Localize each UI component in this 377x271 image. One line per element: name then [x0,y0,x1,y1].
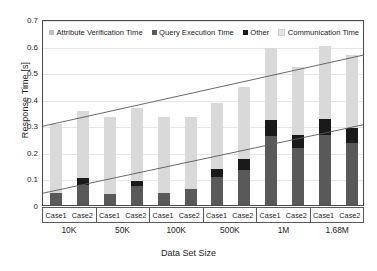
y-tick-label: 0.4 [27,95,38,104]
total-trend [43,55,363,126]
x-case-label: Case1 [150,208,176,222]
x-case-label: Case1 [311,208,337,222]
y-tick-label: 0.6 [27,42,38,51]
trend-lines [43,21,363,205]
y-tick-label: 0.2 [27,148,38,157]
lower-trend [43,125,363,193]
x-group-box: Case1Case2 [97,207,151,223]
x-axis-case-labels: Case1Case2Case1Case2Case1Case2Case1Case2… [42,207,364,223]
x-group-box: Case1Case2 [311,207,365,223]
x-case-label: Case2 [69,208,95,222]
y-axis-tick-labels: 00.10.20.30.40.50.60.7 [12,14,38,207]
x-case-label: Case2 [176,208,202,222]
x-case-label: Case1 [43,208,69,222]
x-group-box: Case1Case2 [150,207,204,223]
plot-area: Attribute Verification TimeQuery Executi… [42,20,364,206]
x-axis-group-labels: 10K50K100K500K1M1.68M [42,225,364,239]
x-case-label: Case2 [123,208,149,222]
x-size-label: 50K [96,225,150,239]
x-size-label: 1.68M [310,225,364,239]
y-tick-label: 0 [34,202,38,211]
x-size-label: 500K [203,225,257,239]
x-group-box: Case1Case2 [257,207,311,223]
x-size-label: 1M [257,225,311,239]
x-axis-title: Data Set Size [0,248,377,258]
x-case-label: Case2 [230,208,256,222]
x-case-label: Case2 [337,208,363,222]
x-case-label: Case2 [283,208,309,222]
x-size-label: 100K [149,225,203,239]
chart-figure: Response Time [s] 00.10.20.30.40.50.60.7… [0,0,377,271]
y-tick-label: 0.7 [27,16,38,25]
x-case-label: Case1 [204,208,230,222]
x-size-label: 10K [42,225,96,239]
x-group-box: Case1Case2 [204,207,258,223]
y-tick-label: 0.5 [27,69,38,78]
x-case-label: Case1 [97,208,123,222]
y-tick-label: 0.1 [27,175,38,184]
x-case-label: Case1 [257,208,283,222]
x-group-box: Case1Case2 [42,207,97,223]
y-tick-label: 0.3 [27,122,38,131]
